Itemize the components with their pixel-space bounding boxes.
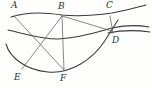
diagram-figure: A B C D E F <box>0 0 152 88</box>
label-point-d: D <box>112 36 119 45</box>
label-point-b: B <box>58 2 65 11</box>
upper-curve <box>11 5 146 17</box>
middle-curve-lower-edge <box>108 31 150 33</box>
chord-b-f <box>62 16 64 70</box>
label-point-a: A <box>11 1 18 10</box>
label-point-c: C <box>106 1 113 10</box>
chord-a-f <box>14 16 64 70</box>
label-point-e: E <box>14 73 21 82</box>
chord-b-d <box>62 16 112 31</box>
diagram-canvas <box>0 0 152 88</box>
label-point-f: F <box>60 74 66 83</box>
